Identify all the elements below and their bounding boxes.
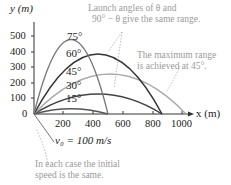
y-tick-300: 300 [10,61,26,72]
angle-label-75: 75° [67,30,82,42]
y-tick-100: 100 [10,92,26,103]
x-tick-800: 800 [145,118,161,129]
angle-label-15: 15° [66,92,81,104]
angle-label-60: 60° [66,47,81,59]
angle-label-30: 30° [66,79,81,91]
x-tick-400: 400 [85,118,101,129]
initial-velocity-label: v₀ = 100 m/s [55,134,111,146]
x-tick-1000: 1000 [171,118,192,129]
trajectory-plot [0,0,231,185]
y-tick-400: 400 [10,46,26,57]
y-tick-500: 500 [10,30,26,41]
trajectory-15 [34,109,108,114]
x-tick-200: 200 [55,118,71,129]
note-max-range-2: is achieved at 45°. [137,61,207,72]
note-complementary-2: 90° − θ give the same range. [92,14,200,25]
note-initial-speed-2: speed is the same. [35,170,104,181]
note-max-range-1: The maximum range [137,50,216,61]
note-complementary-1: Launch angles of θ and [88,3,176,14]
x-tick-600: 600 [115,118,131,129]
y-tick-200: 200 [10,77,26,88]
y-tick-0: 0 [22,108,27,119]
x-axis-label: x (m) [196,107,220,119]
note-initial-speed-1: In each case the initial [35,159,120,170]
angle-label-45: 45° [66,65,81,77]
y-axis-label: y (m) [10,2,33,14]
